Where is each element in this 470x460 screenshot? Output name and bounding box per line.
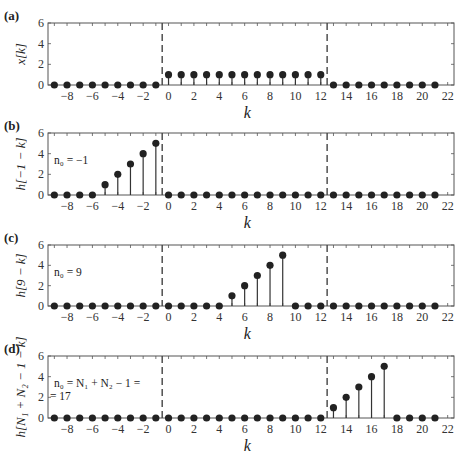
stem-marker <box>254 191 261 198</box>
stem-marker <box>419 81 426 88</box>
y-tick-label: 0 <box>38 78 44 92</box>
stem-marker <box>114 171 121 178</box>
stem-marker <box>203 414 210 421</box>
stem-marker <box>266 71 273 78</box>
stem-marker <box>63 191 70 198</box>
x-tick-label: 22 <box>442 199 454 213</box>
stem-marker <box>203 191 210 198</box>
stem-marker <box>165 414 172 421</box>
plot-frame <box>48 133 454 195</box>
stem-marker <box>343 394 350 401</box>
stem-marker <box>431 414 438 421</box>
y-tick-label: 4 <box>38 37 44 51</box>
stem-marker <box>190 302 197 309</box>
x-tick-label: −2 <box>137 89 150 103</box>
stem-marker <box>89 81 96 88</box>
y-tick-label: 2 <box>38 279 44 293</box>
y-tick-label: 0 <box>38 188 44 202</box>
stem-marker <box>406 191 413 198</box>
n0-annotation-line2: = 17 <box>50 390 71 402</box>
x-tick-label: −6 <box>86 310 99 324</box>
x-tick-label: 0 <box>166 310 172 324</box>
x-tick-label: 6 <box>242 310 248 324</box>
n0-annotation: n₀ = 9 <box>54 266 82 278</box>
x-tick-label: 12 <box>315 310 327 324</box>
panel-b: −8−6−4−202468101214161820220246(b)h[−1 −… <box>4 118 454 231</box>
y-tick-label: 6 <box>38 238 44 252</box>
stem-marker <box>355 81 362 88</box>
y-tick-label: 0 <box>38 299 44 313</box>
stem-marker <box>89 414 96 421</box>
stem-marker <box>317 302 324 309</box>
panel-label: (c) <box>4 230 18 245</box>
x-tick-label: 16 <box>366 199 378 213</box>
x-tick-label: 0 <box>166 89 172 103</box>
x-tick-label: 4 <box>216 310 222 324</box>
stem-marker <box>279 71 286 78</box>
stem-marker <box>304 71 311 78</box>
stem-marker <box>304 414 311 421</box>
x-tick-label: 16 <box>366 89 378 103</box>
panel-d: −8−6−4−202468101214161820220246(d)h[N₁ +… <box>4 336 454 454</box>
plot-frame <box>48 23 454 85</box>
y-tick-label: 6 <box>38 16 44 30</box>
stem-marker <box>190 191 197 198</box>
stem-marker <box>355 302 362 309</box>
stem-marker <box>343 302 350 309</box>
n0-annotation: n₀ = −1 <box>54 154 88 166</box>
stem-marker <box>76 302 83 309</box>
stem-marker <box>178 302 185 309</box>
x-tick-label: 18 <box>391 310 403 324</box>
stem-marker <box>178 414 185 421</box>
x-tick-label: 2 <box>191 422 197 436</box>
x-tick-label: 18 <box>391 422 403 436</box>
x-tick-label: 0 <box>166 199 172 213</box>
stem-marker <box>241 282 248 289</box>
x-tick-label: 12 <box>315 89 327 103</box>
x-tick-label: 12 <box>315 422 327 436</box>
y-tick-label: 4 <box>38 370 44 384</box>
stem-marker <box>355 383 362 390</box>
x-tick-label: 22 <box>442 89 454 103</box>
x-axis-label: k <box>244 104 252 121</box>
panel-a: −8−6−4−202468101214161820220246(a)x[k]k <box>4 8 454 121</box>
x-tick-label: 4 <box>216 89 222 103</box>
x-tick-label: 12 <box>315 199 327 213</box>
stem-marker <box>63 302 70 309</box>
x-tick-label: 14 <box>340 199 352 213</box>
x-tick-label: 20 <box>416 89 428 103</box>
stem-marker <box>406 414 413 421</box>
x-tick-label: 16 <box>366 310 378 324</box>
stem-marker <box>292 191 299 198</box>
stem-marker <box>368 373 375 380</box>
y-tick-label: 6 <box>38 349 44 363</box>
stem-marker <box>304 191 311 198</box>
stem-marker <box>266 262 273 269</box>
stem-marker <box>330 404 337 411</box>
stem-marker <box>431 191 438 198</box>
x-tick-label: −4 <box>111 310 124 324</box>
x-tick-label: 18 <box>391 199 403 213</box>
stem-marker <box>254 414 261 421</box>
stem-marker <box>51 302 58 309</box>
stem-marker <box>114 81 121 88</box>
x-tick-label: 22 <box>442 422 454 436</box>
x-tick-label: −6 <box>86 422 99 436</box>
stem-marker <box>76 414 83 421</box>
stem-marker <box>51 414 58 421</box>
x-tick-label: 10 <box>289 422 301 436</box>
x-tick-label: 0 <box>166 422 172 436</box>
stem-marker <box>63 81 70 88</box>
stem-marker <box>51 81 58 88</box>
stem-marker <box>51 191 58 198</box>
stem-marker <box>190 71 197 78</box>
y-tick-label: 2 <box>38 57 44 71</box>
panel-c: −8−6−4−202468101214161820220246(c)h[9 − … <box>4 230 454 342</box>
stem-marker <box>203 302 210 309</box>
stem-marker <box>381 191 388 198</box>
stem-marker <box>279 191 286 198</box>
stem-marker <box>228 414 235 421</box>
stem-marker <box>89 302 96 309</box>
y-axis-label: h[−1 − k] <box>13 138 28 191</box>
x-tick-label: 8 <box>267 422 273 436</box>
